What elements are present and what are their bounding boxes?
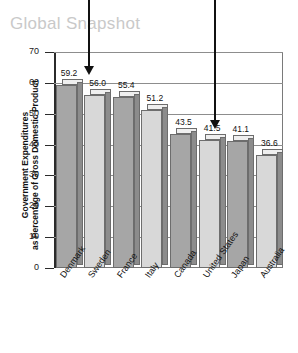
arrow-head-icon <box>210 120 220 129</box>
bar-front-face <box>84 95 105 268</box>
bar-front-face <box>199 140 220 268</box>
bar <box>199 134 220 268</box>
arrow-shaft <box>88 0 90 68</box>
arrow-head-icon <box>84 66 94 75</box>
bar-side-face <box>191 131 197 265</box>
arrow-shaft <box>214 0 216 122</box>
bar <box>113 91 134 268</box>
bar-front-face <box>56 85 77 268</box>
bar-front-face <box>113 97 134 268</box>
bar-front-face <box>141 110 162 268</box>
bar <box>170 128 191 268</box>
bar <box>141 104 162 268</box>
bar-side-face <box>134 94 140 265</box>
bar <box>56 79 77 268</box>
bar-front-face <box>170 134 191 268</box>
bar-value-label: 51.2 <box>138 93 171 103</box>
bar-value-label: 41.1 <box>224 124 257 134</box>
bar-value-label: 59.2 <box>53 68 86 78</box>
bar-value-label: 36.6 <box>253 138 286 148</box>
bar <box>84 89 105 268</box>
bar-side-face <box>162 107 168 265</box>
bar-side-face <box>248 138 254 265</box>
bar-series: 59.256.055.451.243.541.541.136.6 <box>0 0 298 353</box>
bar-side-face <box>105 92 111 265</box>
bar-side-face <box>77 82 83 265</box>
bar-value-label: 55.4 <box>110 80 143 90</box>
chart-container: Global Snapshot 010203040506070 Governme… <box>0 0 298 353</box>
